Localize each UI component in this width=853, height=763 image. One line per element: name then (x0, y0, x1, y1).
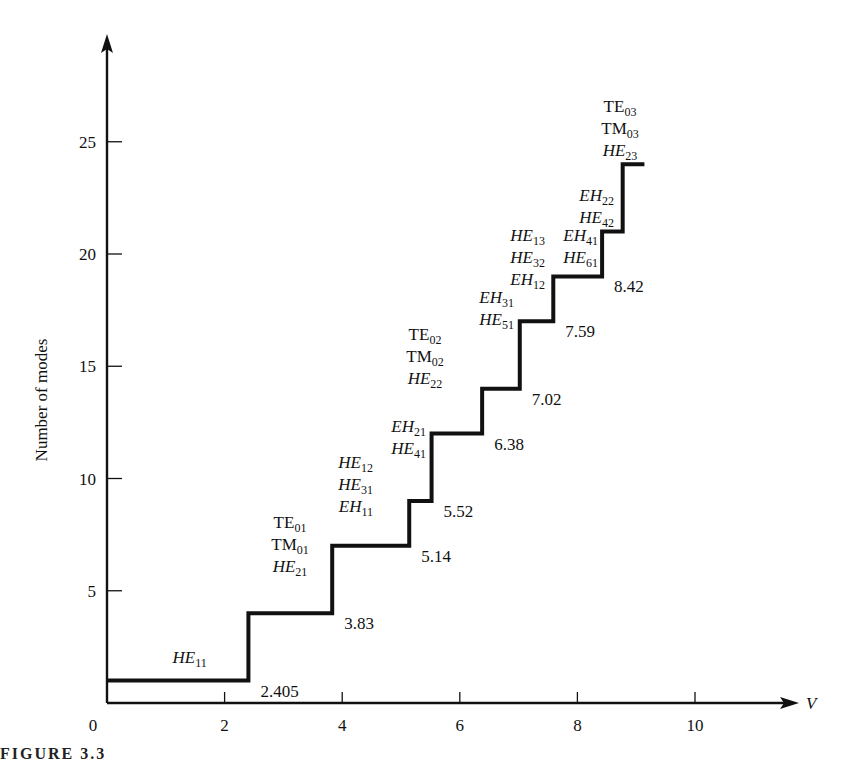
y-tick-label: 5 (88, 582, 97, 601)
y-tick-label: 20 (79, 245, 96, 264)
mode-label: HE51 (478, 310, 514, 332)
cutoff-value-label: 5.14 (421, 547, 451, 566)
mode-label: EH22 (578, 186, 614, 208)
mode-label: TE02 (409, 325, 442, 347)
x-tick-label: 0 (89, 716, 98, 735)
mode-label: EH11 (338, 497, 373, 519)
x-tick-label: 2 (220, 716, 229, 735)
cutoff-value-label: 7.59 (565, 322, 595, 341)
annotations: 2.4053.835.145.526.387.027.598.42HE11TE0… (172, 97, 644, 701)
mode-label: TM03 (601, 119, 639, 141)
mode-label: TM02 (406, 347, 444, 369)
mode-label: HE11 (172, 648, 207, 670)
x-tick-label: 6 (456, 716, 465, 735)
figure-caption: FIGURE 3.3 (0, 745, 106, 763)
mode-label: HE61 (562, 248, 598, 270)
x-axis-label: V (806, 694, 819, 713)
x-tick-label: 4 (338, 716, 347, 735)
mode-label: TE03 (604, 97, 637, 119)
x-tick-label: 8 (573, 716, 582, 735)
cutoff-value-label: 6.38 (494, 435, 524, 454)
y-tick-label: 15 (79, 357, 96, 376)
mode-label: HE31 (337, 475, 373, 497)
mode-label: EH41 (562, 226, 598, 248)
cutoff-value-label: 8.42 (614, 277, 644, 296)
cutoff-value-label: 5.52 (444, 502, 474, 521)
mode-label: HE21 (272, 557, 308, 579)
y-tick-label: 10 (79, 470, 96, 489)
mode-label: HE13 (509, 226, 545, 248)
y-tick-label: 25 (79, 133, 96, 152)
mode-label: EH12 (509, 270, 545, 292)
mode-label: HE12 (337, 453, 373, 475)
x-tick-label: 10 (687, 716, 704, 735)
cutoff-value-label: 3.83 (344, 614, 374, 633)
mode-label: HE32 (509, 248, 545, 270)
mode-label: HE42 (578, 208, 614, 230)
y-axis-label: Number of modes (32, 339, 51, 462)
mode-label: EH31 (478, 288, 514, 310)
cutoff-value-label: 7.02 (532, 390, 562, 409)
cutoff-value-label: 2.405 (260, 682, 298, 701)
mode-label: TE01 (274, 513, 307, 535)
mode-label: TM01 (271, 535, 309, 557)
mode-label: EH21 (390, 417, 426, 439)
mode-label: HE23 (602, 141, 638, 163)
mode-label: HE41 (390, 439, 426, 461)
mode-label: HE22 (407, 369, 443, 391)
